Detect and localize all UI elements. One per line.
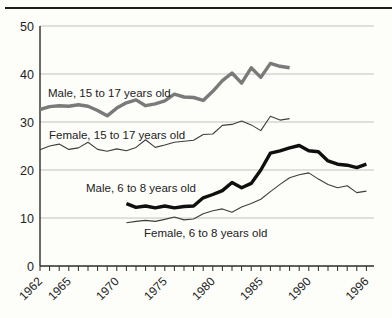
x-axis-labels: 19621965197019751980198519901996 [16,274,371,303]
series-label-male-6-8: Male, 6 to 8 years old [86,182,196,194]
x-tick-label-1975: 1975 [141,274,170,303]
y-tick-label-10: 10 [20,212,34,226]
x-tick-marks [40,266,366,271]
line-chart: 01020304050 1962196519701975198019851990… [0,0,392,318]
y-tick-label-20: 20 [20,164,34,178]
y-tick-label-30: 30 [20,116,34,130]
x-tick-label-1990: 1990 [285,274,314,303]
series-line-male-6-8 [126,146,366,208]
series-label-female-6-8: Female, 6 to 8 years old [144,227,267,239]
series-label-male-15-17: Male, 15 to 17 years old [48,87,171,99]
x-tick-label-1996: 1996 [343,274,372,303]
series-label-female-15-17: Female, 15 to 17 years old [49,129,185,141]
y-tick-label-40: 40 [20,68,34,82]
x-tick-label-1970: 1970 [93,274,122,303]
series-inline-labels: Male, 15 to 17 years oldFemale, 15 to 17… [48,87,267,239]
x-tick-label-1980: 1980 [189,274,218,303]
series-line-female-6-8 [126,173,366,223]
y-tick-label-50: 50 [20,20,34,34]
y-axis-labels: 01020304050 [20,20,34,274]
x-tick-label-1985: 1985 [237,274,266,303]
x-tick-label-1965: 1965 [45,274,74,303]
x-tick-label-1962: 1962 [16,274,45,303]
chart-page: 01020304050 1962196519701975198019851990… [0,0,392,318]
y-tick-label-0: 0 [27,260,34,274]
